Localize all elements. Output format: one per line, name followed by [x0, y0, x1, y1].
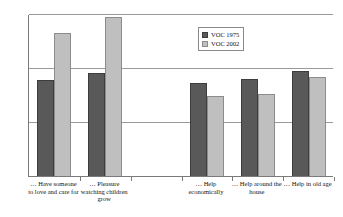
bar	[292, 71, 309, 177]
legend-label: VOC 1975	[211, 31, 239, 38]
bar-group	[80, 15, 131, 177]
legend-swatch-icon	[202, 41, 208, 47]
bar	[190, 83, 207, 178]
legend-item: VOC 2002	[202, 39, 239, 48]
x-axis-category-label-line: … Pleasure	[70, 180, 139, 188]
bar-chart: 0123 … Have someoneto love and care for……	[0, 0, 343, 217]
bar	[54, 33, 71, 177]
x-axis-category-label: … Help in old age	[273, 180, 342, 188]
bar-groups	[29, 15, 333, 177]
plot-area: 0123	[28, 15, 333, 177]
bar	[37, 80, 54, 177]
x-axis-category-label-line: … Help in old age	[273, 180, 342, 188]
bar	[309, 77, 326, 177]
x-axis-category-label-line: grow	[70, 195, 139, 203]
legend-label: VOC 2002	[211, 40, 239, 47]
bar	[241, 79, 258, 177]
bar	[258, 94, 275, 177]
legend-swatch-icon	[202, 32, 208, 38]
bar-group	[29, 15, 80, 177]
x-axis-category-label-line: watching children	[70, 188, 139, 196]
bar-group	[283, 15, 334, 177]
x-axis-category-label: … Pleasurewatching childrengrow	[70, 180, 139, 203]
legend-item: VOC 1975	[202, 30, 239, 39]
bar	[88, 73, 105, 177]
bar	[207, 96, 224, 177]
x-axis-labels: … Have someoneto love and care for… Plea…	[28, 180, 333, 217]
x-axis-category-label-line: house	[222, 188, 291, 196]
chart-legend: VOC 1975 VOC 2002	[198, 27, 244, 51]
bar	[105, 17, 122, 177]
